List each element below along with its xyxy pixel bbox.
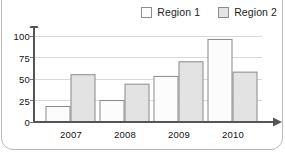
bar-2009-series-2	[179, 62, 203, 122]
x-tick-label-2007: 2007	[60, 129, 82, 140]
legend-label-region-1: Region 1	[157, 6, 200, 18]
legend-swatch-region-1	[141, 7, 152, 18]
x-tick-label-2008: 2008	[114, 129, 136, 140]
bar-2007-series-1	[46, 107, 70, 122]
legend-entry-region-2: Region 2	[218, 6, 277, 18]
bar-2010-series-2	[233, 72, 257, 122]
bar-2008-series-1	[100, 101, 124, 123]
bar-2008-series-2	[125, 84, 149, 122]
legend-label-region-2: Region 2	[234, 6, 277, 18]
x-tick-label-2009: 2009	[168, 129, 190, 140]
chart-figure: Region 1 Region 2 0255075100 20072008200…	[0, 0, 285, 160]
chart-legend: Region 1 Region 2	[141, 6, 277, 18]
bar-2009-series-1	[154, 76, 178, 122]
bar-2007-series-2	[71, 75, 95, 122]
plot-area: 0255075100 2007200820092010	[0, 26, 285, 146]
bar-2010-series-1	[208, 39, 232, 122]
legend-swatch-region-2	[218, 7, 229, 18]
legend-entry-region-1: Region 1	[141, 6, 200, 18]
x-tick-label-2010: 2010	[222, 129, 244, 140]
chart-canvas: 2007200820092010	[0, 26, 285, 146]
